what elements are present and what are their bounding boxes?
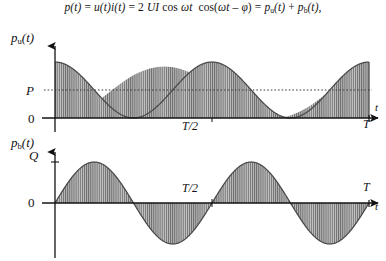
equals-1: = xyxy=(84,1,91,13)
equals-2: = xyxy=(128,1,135,13)
upper-y-axis-label: pu(t) xyxy=(11,31,34,45)
equation-lhs: p(t) xyxy=(64,1,81,13)
p-b-argument: (t), xyxy=(307,1,321,13)
amplitude-UI: UI xyxy=(147,1,159,13)
omega-t-1: ωt xyxy=(181,1,193,13)
equals-3: = xyxy=(255,1,262,13)
cos-2: cos( xyxy=(198,1,218,13)
lower-x-axis-label: t xyxy=(375,201,378,212)
upper-half-period-label: T/2 xyxy=(182,120,198,132)
lower-half-period-label: T/2 xyxy=(182,182,198,194)
minus-sign: – xyxy=(233,1,239,13)
lower-amplitude-label: Q xyxy=(29,149,38,162)
plus-sign: + xyxy=(288,1,295,13)
upper-zero-label: 0 xyxy=(28,112,35,125)
p-u-argument: (t) xyxy=(274,1,285,13)
equation-line: p(t)=u(t)i(t)=2UIcosωtcos(ωt–φ)=pu(t)+pb… xyxy=(0,1,386,15)
lower-period-label: T xyxy=(363,181,370,193)
coefficient-two: 2 xyxy=(138,1,144,13)
figure-page: p(t)=u(t)i(t)=2UIcosωtcos(ωt–φ)=pu(t)+pb… xyxy=(0,0,386,261)
power-waveform-figure xyxy=(0,22,386,261)
close-paren: ) xyxy=(248,1,252,13)
upper-mean-label: P xyxy=(26,84,34,97)
upper-period-label: T xyxy=(363,118,370,130)
lower-zero-label: 0 xyxy=(28,196,35,209)
equation-ui-product: u(t)i(t) xyxy=(94,1,125,13)
cos-1: cos xyxy=(162,1,178,13)
upper-x-axis-label: t xyxy=(375,102,378,113)
omega-t-2: ωt xyxy=(218,1,230,13)
